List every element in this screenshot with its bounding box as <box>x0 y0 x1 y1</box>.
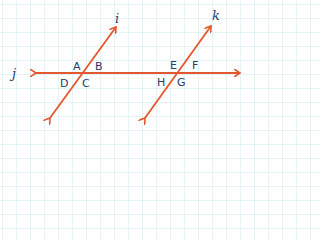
label-line-k: k <box>212 8 220 23</box>
diagram-canvas: j i k A B D C E F H G <box>0 0 247 133</box>
label-line-j: j <box>9 66 16 81</box>
angle-label-a: A <box>73 60 81 73</box>
line-k <box>145 26 211 118</box>
angle-label-d: D <box>60 77 68 90</box>
angle-label-f: F <box>192 59 198 72</box>
angle-label-b: B <box>95 60 103 73</box>
angle-label-g: G <box>177 76 186 89</box>
angle-label-h: H <box>157 76 165 89</box>
angle-label-c: C <box>82 77 90 90</box>
label-line-i: i <box>115 11 119 26</box>
angle-label-e: E <box>170 59 177 72</box>
